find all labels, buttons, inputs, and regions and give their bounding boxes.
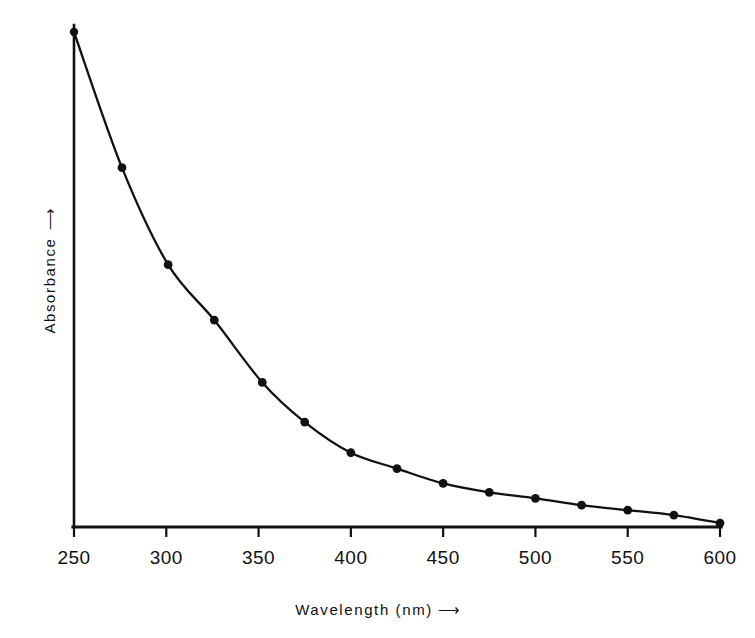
- data-point-marker: [669, 511, 678, 520]
- y-axis-arrow-icon: ⟶: [41, 208, 58, 230]
- x-axis-tick-label: 400: [334, 547, 367, 569]
- chart-plot-area: [0, 0, 755, 638]
- data-point-marker: [577, 501, 586, 510]
- x-axis-tick-label: 550: [611, 547, 644, 569]
- data-point-marker: [485, 488, 494, 497]
- data-point-markers: [70, 28, 725, 528]
- x-axis-tick-label: 600: [703, 547, 736, 569]
- x-axis-tick-label: 350: [242, 547, 275, 569]
- data-point-marker: [70, 28, 78, 36]
- y-axis-title: Absorbance⟶: [41, 121, 59, 421]
- x-axis-arrow-icon: ⟶: [438, 601, 460, 618]
- data-point-marker: [716, 519, 725, 528]
- data-point-marker: [393, 464, 402, 473]
- absorbance-spectrum-figure: 250300350400450500550600 Wavelength (nm)…: [0, 0, 755, 638]
- data-point-marker: [300, 418, 309, 427]
- data-point-marker: [439, 479, 448, 488]
- data-point-marker: [531, 494, 540, 503]
- x-axis-title-text: Wavelength (nm): [295, 601, 433, 618]
- data-point-marker: [164, 260, 173, 269]
- data-point-marker: [118, 163, 127, 172]
- data-point-marker: [210, 316, 219, 325]
- data-point-marker: [623, 506, 632, 515]
- x-axis-tick-label: 250: [57, 547, 90, 569]
- x-axis-tick-label: 450: [427, 547, 460, 569]
- y-axis-title-text: Absorbance: [41, 237, 58, 333]
- data-point-marker: [258, 378, 267, 387]
- data-point-marker: [346, 448, 355, 457]
- x-axis-tick-label: 500: [519, 547, 552, 569]
- x-axis-title: Wavelength (nm)⟶: [0, 601, 755, 619]
- x-axis-tick-label: 300: [150, 547, 183, 569]
- absorbance-curve: [74, 32, 720, 523]
- axes-group: [73, 25, 721, 527]
